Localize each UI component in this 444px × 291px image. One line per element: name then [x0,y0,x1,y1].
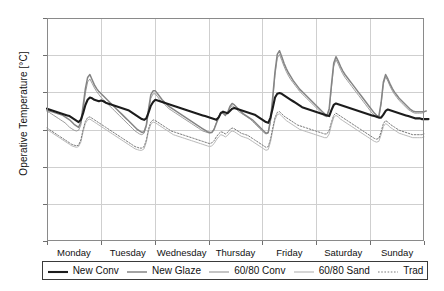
chart-legend: New ConvNew Glaze60/80 Conv60/80 SandTra… [42,261,428,280]
legend-label: New Glaze [152,265,201,276]
legend-line-swatch-icon [208,262,230,280]
x-axis-tick-mark [47,241,48,245]
x-axis-tick-label: Thursday [209,247,263,258]
y-axis-title: Operative Temperature [°C] [18,0,29,229]
legend-line-swatch-icon [293,262,315,280]
x-axis-tick-mark [209,241,210,245]
x-axis-tick-label: Monday [47,247,101,258]
y-axis-tick-mark [43,92,47,93]
legend-label: New Conv [73,265,119,276]
y-axis-tick-mark [43,130,47,131]
plot-frame [47,18,424,241]
x-axis-tick-mark [424,241,425,245]
x-axis-tick-mark [316,241,317,245]
x-axis-tick-label: Sunday [370,247,424,258]
legend-line-swatch-icon [47,262,69,280]
x-axis-tick-label: Wednesday [155,247,209,258]
legend-label: 60/80 Conv [234,265,285,276]
legend-line-swatch-icon [377,262,399,280]
legend-item[interactable]: New Glaze [123,262,204,280]
x-axis-tick-mark [370,241,371,245]
y-axis-tick-mark [43,204,47,205]
legend-label: Trad [403,265,423,276]
legend-item[interactable]: 60/80 Conv [205,262,288,280]
legend-line-swatch-icon [126,262,148,280]
x-axis-tick-mark [155,241,156,245]
y-axis-tick-mark [43,18,47,19]
x-axis-tick-label: Tuesday [101,247,155,258]
x-axis-tick-mark [262,241,263,245]
y-axis-tick-mark [43,167,47,168]
y-axis-tick-mark [43,55,47,56]
x-axis-tick-label: Saturday [316,247,370,258]
legend-item[interactable]: New Conv [44,262,122,280]
legend-item[interactable]: 60/80 Sand [290,262,373,280]
operative-temperature-chart: Operative Temperature [°C] 051015202530 … [0,0,444,291]
legend-item[interactable]: Trad [374,262,426,280]
x-axis-tick-label: Friday [262,247,316,258]
plot-area [47,18,424,241]
x-axis-tick-mark [101,241,102,245]
legend-label: 60/80 Sand [319,265,370,276]
